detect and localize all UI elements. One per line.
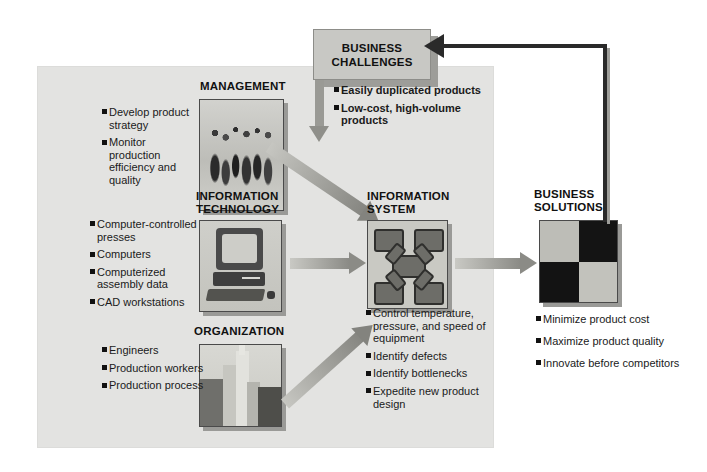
feedback-line-shadow bbox=[607, 48, 610, 224]
bullet-square-icon bbox=[102, 383, 107, 388]
information-system-heading: INFORMATION SYSTEM bbox=[367, 190, 449, 216]
bullet-square-icon bbox=[366, 388, 371, 393]
feedback-line-horizontal bbox=[443, 44, 605, 48]
feedback-line-vertical bbox=[603, 44, 607, 222]
list-item: Control temperature, pressure, and speed… bbox=[366, 307, 490, 345]
bullet-square-icon bbox=[90, 299, 95, 304]
list-item: Production workers bbox=[102, 362, 212, 375]
bullet-square-icon bbox=[366, 310, 371, 315]
list-item: Identify bottlenecks bbox=[366, 367, 490, 380]
bullet-square-icon bbox=[334, 87, 339, 92]
quadrant-bottom-left-icon bbox=[540, 262, 579, 303]
bullet-square-icon bbox=[90, 221, 95, 226]
list-item: Computerized assembly data bbox=[90, 266, 202, 291]
quadrant-bottom-right-icon bbox=[579, 262, 618, 303]
list-item: Low-cost, high-volume products bbox=[334, 102, 504, 127]
business-challenges-title: BUSINESS CHALLENGES bbox=[331, 41, 412, 69]
arrow-challenges-down bbox=[309, 80, 330, 142]
list-item: Monitor production efficiency and qualit… bbox=[102, 136, 198, 186]
bullet-square-icon bbox=[90, 269, 95, 274]
list-item: Computers bbox=[90, 248, 202, 261]
list-item: Expedite new product design bbox=[366, 385, 490, 410]
information-technology-heading: INFORMATION TECHNOLOGY bbox=[196, 190, 279, 216]
quadrant-top-left-icon bbox=[540, 221, 579, 262]
list-item: Innovate before competitors bbox=[536, 357, 696, 370]
arrow-system-to-solutions bbox=[455, 252, 537, 275]
bullet-square-icon bbox=[536, 360, 541, 365]
bullet-square-icon bbox=[366, 353, 371, 358]
mouse-icon bbox=[267, 291, 275, 299]
information-technology-list: Computer-controlled presses Computers Co… bbox=[90, 218, 202, 309]
list-item: CAD workstations bbox=[90, 296, 202, 309]
information-system-photo bbox=[367, 220, 448, 309]
business-solutions-heading: BUSINESS SOLUTIONS bbox=[534, 188, 603, 214]
management-heading: MANAGEMENT bbox=[200, 80, 286, 93]
business-solutions-list: Minimize product cost Maximize product q… bbox=[536, 313, 696, 370]
bullet-square-icon bbox=[102, 347, 107, 352]
list-item: Minimize product cost bbox=[536, 313, 696, 326]
information-technology-photo bbox=[199, 220, 282, 312]
business-solutions-photo bbox=[539, 220, 618, 303]
list-item: Engineers bbox=[102, 344, 212, 357]
monitor-screen-icon bbox=[222, 234, 258, 264]
bullet-square-icon bbox=[334, 105, 339, 110]
organization-heading: ORGANIZATION bbox=[194, 325, 284, 338]
list-item: Maximize product quality bbox=[536, 335, 696, 348]
organization-list: Engineers Production workers Production … bbox=[102, 344, 212, 392]
arrow-it-to-system bbox=[290, 252, 366, 275]
list-item: Computer-controlled presses bbox=[90, 218, 202, 243]
quadrant-top-right-icon bbox=[579, 221, 618, 262]
information-system-list: Control temperature, pressure, and speed… bbox=[366, 307, 490, 410]
list-item: Easily duplicated products bbox=[334, 84, 504, 97]
business-challenges-box[interactable]: BUSINESS CHALLENGES bbox=[313, 29, 431, 80]
list-item: Production process bbox=[102, 379, 212, 392]
keyboard-icon bbox=[206, 289, 265, 301]
drive-slot-icon bbox=[242, 277, 260, 280]
diagram-canvas: BUSINESS CHALLENGES Easily duplicated pr… bbox=[0, 0, 707, 472]
management-list: Develop product strategy Monitor product… bbox=[102, 106, 198, 187]
bullet-square-icon bbox=[102, 109, 107, 114]
bullet-square-icon bbox=[366, 371, 371, 376]
business-challenges-list: Easily duplicated products Low-cost, hig… bbox=[334, 84, 504, 127]
skyscraper-spire-icon bbox=[239, 345, 245, 355]
bullet-square-icon bbox=[102, 140, 107, 145]
list-item: Develop product strategy bbox=[102, 106, 198, 131]
feedback-arrowhead-icon bbox=[424, 34, 444, 58]
bullet-square-icon bbox=[90, 252, 95, 257]
bullet-square-icon bbox=[102, 365, 107, 370]
list-item: Identify defects bbox=[366, 350, 490, 363]
bullet-square-icon bbox=[536, 338, 541, 343]
bullet-square-icon bbox=[536, 316, 541, 321]
